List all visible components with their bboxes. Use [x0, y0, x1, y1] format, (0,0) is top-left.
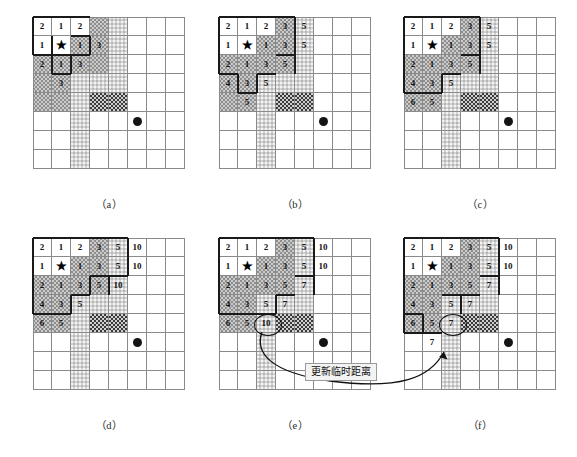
cell-r1-c2[interactable]: 1 — [442, 257, 461, 276]
cell-r6-c5[interactable] — [499, 352, 518, 371]
cell-r5-c1[interactable] — [238, 333, 257, 352]
cell-r1-c0[interactable]: 1 — [219, 36, 238, 55]
cell-r2-c4[interactable]: 7 — [295, 276, 314, 295]
cell-r1-c3[interactable]: 3 — [90, 257, 109, 276]
cell-r0-c0[interactable]: 2 — [404, 238, 423, 257]
cell-r0-c5[interactable] — [314, 17, 333, 36]
cell-r4-c6[interactable] — [147, 93, 166, 112]
cell-r4-c3[interactable] — [276, 314, 295, 333]
cell-r2-c2[interactable]: 3 — [71, 55, 90, 74]
cell-r4-c1[interactable] — [52, 93, 71, 112]
cell-r2-c2[interactable]: 3 — [71, 276, 90, 295]
cell-r1-c2[interactable]: 1 — [257, 36, 276, 55]
cell-r4-c1[interactable]: 5 — [238, 93, 257, 112]
cell-r0-c7[interactable] — [537, 238, 556, 257]
cell-r4-c3[interactable] — [90, 314, 109, 333]
cell-r7-c1[interactable] — [52, 150, 71, 169]
cell-r5-c3[interactable] — [90, 333, 109, 352]
cell-r2-c6[interactable] — [147, 55, 166, 74]
cell-r7-c7[interactable] — [537, 371, 556, 390]
cell-r0-c7[interactable] — [166, 238, 185, 257]
cell-r5-c1[interactable] — [52, 112, 71, 131]
cell-r1-c0[interactable]: 1 — [404, 36, 423, 55]
cell-r1-c6[interactable] — [518, 257, 537, 276]
cell-r5-c7[interactable] — [352, 333, 371, 352]
cell-r5-c6[interactable] — [147, 112, 166, 131]
cell-r4-c0[interactable] — [33, 93, 52, 112]
cell-r7-c2[interactable] — [257, 371, 276, 390]
cell-r3-c7[interactable] — [352, 74, 371, 93]
cell-r4-c1[interactable]: 5 — [423, 314, 442, 333]
cell-r1-c1[interactable]: ★ — [423, 36, 442, 55]
cell-r3-c2[interactable]: 5 — [71, 295, 90, 314]
cell-r2-c2[interactable]: 3 — [442, 276, 461, 295]
cell-r3-c1[interactable]: 3 — [52, 295, 71, 314]
cell-r5-c6[interactable] — [518, 333, 537, 352]
cell-r0-c5[interactable]: 10 — [499, 238, 518, 257]
cell-r1-c6[interactable] — [333, 36, 352, 55]
cell-r6-c0[interactable] — [33, 352, 52, 371]
cell-r3-c6[interactable] — [518, 295, 537, 314]
cell-r0-c0[interactable]: 2 — [33, 17, 52, 36]
cell-r6-c7[interactable] — [537, 352, 556, 371]
cell-r4-c2[interactable] — [257, 93, 276, 112]
cell-r0-c4[interactable]: 5 — [109, 238, 128, 257]
cell-r5-c0[interactable] — [219, 333, 238, 352]
cell-r7-c0[interactable] — [219, 371, 238, 390]
cell-r1-c0[interactable]: 1 — [219, 257, 238, 276]
cell-r1-c1[interactable]: ★ — [423, 257, 442, 276]
cell-r5-c5[interactable] — [314, 333, 333, 352]
cell-r4-c4[interactable] — [109, 93, 128, 112]
cell-r5-c7[interactable] — [537, 333, 556, 352]
cell-r3-c3[interactable] — [90, 295, 109, 314]
cell-r2-c0[interactable]: 2 — [219, 276, 238, 295]
cell-r3-c2[interactable]: 5 — [257, 74, 276, 93]
cell-r2-c7[interactable] — [166, 276, 185, 295]
cell-r2-c4[interactable] — [295, 55, 314, 74]
cell-r2-c7[interactable] — [537, 55, 556, 74]
cell-r7-c4[interactable] — [109, 150, 128, 169]
cell-r6-c5[interactable] — [499, 131, 518, 150]
cell-r0-c4[interactable] — [109, 17, 128, 36]
cell-r7-c6[interactable] — [147, 371, 166, 390]
cell-r1-c4[interactable]: 5 — [295, 257, 314, 276]
cell-r3-c5[interactable] — [128, 74, 147, 93]
cell-r2-c3[interactable]: 5 — [276, 276, 295, 295]
cell-r7-c1[interactable] — [52, 371, 71, 390]
cell-r7-c7[interactable] — [166, 371, 185, 390]
cell-r4-c2[interactable]: 10 — [257, 314, 276, 333]
cell-r3-c1[interactable]: 3 — [238, 74, 257, 93]
cell-r0-c2[interactable]: 2 — [71, 238, 90, 257]
cell-r6-c1[interactable] — [238, 131, 257, 150]
cell-r4-c6[interactable] — [518, 93, 537, 112]
cell-r1-c1[interactable]: ★ — [52, 257, 71, 276]
cell-r7-c5[interactable] — [314, 150, 333, 169]
cell-r0-c2[interactable]: 2 — [71, 17, 90, 36]
cell-r0-c0[interactable]: 2 — [219, 238, 238, 257]
cell-r0-c1[interactable]: 1 — [238, 238, 257, 257]
cell-r2-c6[interactable] — [518, 55, 537, 74]
cell-r4-c7[interactable] — [166, 93, 185, 112]
cell-r3-c1[interactable]: 3 — [52, 74, 71, 93]
cell-r7-c1[interactable] — [238, 150, 257, 169]
cell-r3-c2[interactable]: 5 — [442, 74, 461, 93]
cell-r1-c6[interactable] — [147, 257, 166, 276]
cell-r4-c3[interactable] — [461, 314, 480, 333]
cell-r2-c0[interactable]: 2 — [404, 276, 423, 295]
cell-r6-c5[interactable] — [314, 131, 333, 150]
cell-r0-c7[interactable] — [352, 17, 371, 36]
cell-r2-c1[interactable]: 1 — [423, 276, 442, 295]
cell-r6-c6[interactable] — [518, 352, 537, 371]
cell-r1-c3[interactable]: 3 — [461, 257, 480, 276]
cell-r5-c7[interactable] — [352, 112, 371, 131]
cell-r2-c3[interactable]: 5 — [461, 276, 480, 295]
cell-r7-c7[interactable] — [352, 150, 371, 169]
cell-r7-c1[interactable] — [423, 371, 442, 390]
cell-r0-c0[interactable]: 2 — [219, 17, 238, 36]
cell-r3-c1[interactable]: 3 — [423, 295, 442, 314]
cell-r5-c0[interactable] — [33, 112, 52, 131]
cell-r1-c1[interactable]: ★ — [238, 257, 257, 276]
cell-r1-c2[interactable]: 1 — [257, 257, 276, 276]
cell-r7-c4[interactable] — [480, 150, 499, 169]
cell-r0-c4[interactable]: 5 — [480, 17, 499, 36]
